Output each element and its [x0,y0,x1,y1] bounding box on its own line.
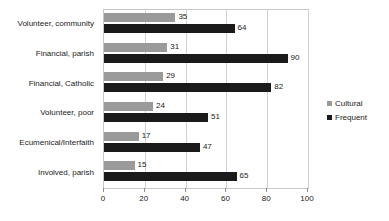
bar-group: 2451 [104,99,308,129]
bar-value-label: 17 [142,131,151,140]
bar-value-label: 29 [166,71,175,80]
bar-frequent [104,172,237,181]
bar-group: 3190 [104,40,308,70]
plot-area: 356431902982245117471565 [103,9,309,189]
bar-value-label: 51 [211,112,220,121]
bar-group: 3564 [104,10,308,40]
axis-tick-label: 40 [180,194,189,203]
axis-tick-label: 0 [101,194,105,203]
legend-swatch-icon [327,115,332,120]
bar-value-label: 47 [203,142,212,151]
bar-cultural [104,13,175,22]
axis-tick-mark [185,188,186,192]
bar-frequent [104,113,208,122]
bar-chart: Volunteer, communityFinancial, parishFin… [0,0,389,221]
bar-value-label: 65 [240,171,249,180]
bar-value-label: 15 [138,160,147,169]
axis-tick-mark [307,188,308,192]
bar-value-label: 82 [274,82,283,91]
axis-tick-label: 80 [262,194,271,203]
axis-tick-label: 60 [221,194,230,203]
axis-tick-label: 20 [139,194,148,203]
bar-cultural [104,102,153,111]
chart-legend: CulturalFrequent [327,97,387,125]
legend-label: Cultural [335,99,363,108]
value-axis: 020406080100 [103,188,307,210]
category-axis: Volunteer, communityFinancial, parishFin… [0,9,98,187]
legend-item[interactable]: Frequent [327,111,387,123]
bar-cultural [104,72,163,81]
axis-tick-label: 100 [300,194,313,203]
category-label: Volunteer, community [18,9,94,39]
category-label: Ecumenical/Interfaith [19,128,94,158]
bar-group: 1747 [104,129,308,159]
bar-frequent [104,54,288,63]
bar-group: 2982 [104,69,308,99]
bar-value-label: 35 [178,12,187,21]
bar-value-label: 90 [291,53,300,62]
legend-label: Frequent [335,113,367,122]
bar-frequent [104,83,271,92]
bar-value-label: 24 [156,101,165,110]
axis-tick-mark [103,188,104,192]
axis-tick-mark [225,188,226,192]
bar-value-label: 31 [170,42,179,51]
bar-frequent [104,24,235,33]
gridline [308,10,309,188]
axis-tick-mark [266,188,267,192]
bar-group: 1565 [104,158,308,188]
bar-frequent [104,143,200,152]
bar-cultural [104,43,167,52]
category-label: Financial, Catholic [29,68,94,98]
category-label: Financial, parish [36,39,94,69]
axis-tick-mark [144,188,145,192]
bar-value-label: 64 [238,23,247,32]
legend-item[interactable]: Cultural [327,97,387,109]
category-label: Involved, parish [38,157,94,187]
category-label: Volunteer, poor [40,98,94,128]
bar-cultural [104,132,139,141]
legend-swatch-icon [327,101,332,106]
bar-cultural [104,161,135,170]
